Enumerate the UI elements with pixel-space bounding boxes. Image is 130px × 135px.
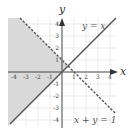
x-axis-label: x xyxy=(120,65,127,78)
y-axis-label: y xyxy=(58,3,66,16)
svg-text:-3: -3 xyxy=(23,73,29,80)
inequality-graph: -4 -3 -2 -1 1 2 3 4 4 3 2 1 -1 -2 -3 -4 … xyxy=(0,0,130,135)
svg-text:3: 3 xyxy=(96,73,100,80)
svg-text:-3: -3 xyxy=(53,104,59,111)
svg-text:-4: -4 xyxy=(53,116,59,123)
svg-text:-1: -1 xyxy=(53,80,59,87)
y-axis-arrow-icon xyxy=(59,18,65,26)
svg-text:-4: -4 xyxy=(11,73,17,80)
svg-text:4: 4 xyxy=(108,73,112,80)
svg-text:-1: -1 xyxy=(47,73,53,80)
svg-text:-2: -2 xyxy=(35,73,41,80)
svg-text:2: 2 xyxy=(55,44,59,51)
svg-text:3: 3 xyxy=(55,32,59,39)
svg-text:1: 1 xyxy=(72,73,76,80)
svg-text:4: 4 xyxy=(55,20,59,27)
svg-text:-2: -2 xyxy=(53,92,59,99)
label-y-equals-x: y = x xyxy=(81,21,105,31)
svg-text:2: 2 xyxy=(84,73,88,80)
label-x-plus-y-equals-1: x + y = 1 xyxy=(74,115,116,125)
svg-text:1: 1 xyxy=(55,56,59,63)
